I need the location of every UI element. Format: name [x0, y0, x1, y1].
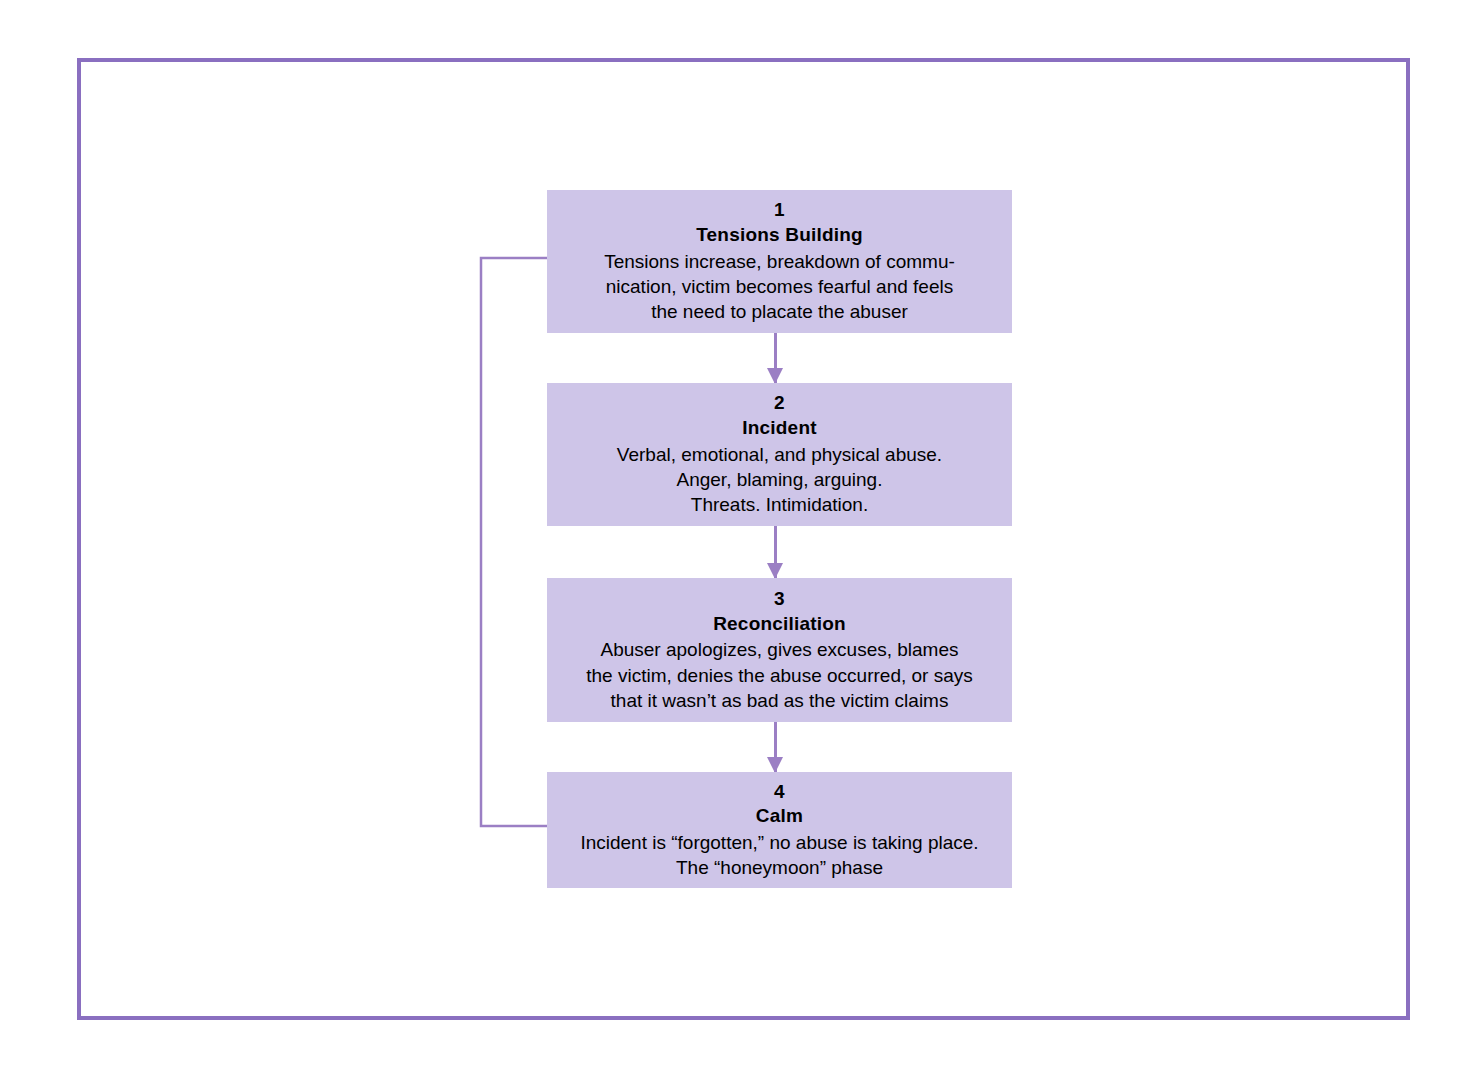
stage-box-4: 4 Calm Incident is “forgotten,” no abuse… — [547, 772, 1012, 888]
connector-arrow-3-to-4 — [771, 722, 779, 772]
stage-3-description: Abuser apologizes, gives excuses, blames… — [586, 637, 973, 713]
stage-box-3: 3 Reconciliation Abuser apologizes, give… — [547, 578, 1012, 722]
stage-1-description: Tensions increase, breakdown of commu- n… — [604, 249, 955, 325]
stage-2-description: Verbal, emotional, and physical abuse. A… — [617, 442, 942, 518]
stage-1-number: 1 — [774, 198, 785, 223]
arrow-head-icon — [767, 757, 783, 773]
stage-4-title: Calm — [756, 804, 803, 829]
stage-2-title: Incident — [742, 416, 816, 441]
stage-3-title: Reconciliation — [713, 612, 846, 637]
connector-arrow-2-to-3 — [771, 526, 779, 578]
stage-3-number: 3 — [774, 587, 785, 612]
arrow-head-icon — [767, 563, 783, 579]
cycle-of-abuse-flowchart: 1 Tensions Building Tensions increase, b… — [0, 0, 1459, 1078]
connector-arrow-1-to-2 — [771, 333, 779, 383]
feedback-loop-arrow — [470, 245, 570, 845]
stage-4-number: 4 — [774, 780, 785, 805]
stage-1-title: Tensions Building — [696, 223, 863, 248]
stage-4-description: Incident is “forgotten,” no abuse is tak… — [580, 830, 978, 881]
stage-box-1: 1 Tensions Building Tensions increase, b… — [547, 190, 1012, 333]
arrow-head-icon — [767, 368, 783, 384]
stage-2-number: 2 — [774, 391, 785, 416]
stage-box-2: 2 Incident Verbal, emotional, and physic… — [547, 383, 1012, 526]
